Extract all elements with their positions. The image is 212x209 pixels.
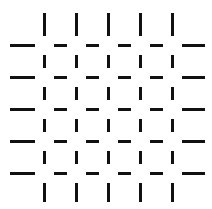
horizontal-segment <box>182 108 205 111</box>
vertical-segment <box>139 183 142 202</box>
vertical-segment <box>43 13 46 36</box>
vertical-segment <box>139 151 142 164</box>
vertical-segment <box>75 183 78 202</box>
horizontal-segment <box>54 76 67 79</box>
vertical-segment <box>139 119 142 132</box>
horizontal-segment <box>10 172 35 175</box>
vertical-segment <box>43 183 46 202</box>
vertical-segment <box>43 119 46 132</box>
horizontal-segment <box>150 140 163 143</box>
vertical-segment <box>75 13 78 36</box>
horizontal-segment <box>54 140 67 143</box>
horizontal-segment <box>86 172 99 175</box>
vertical-segment <box>43 87 46 100</box>
horizontal-segment <box>118 76 131 79</box>
vertical-segment <box>171 13 174 36</box>
horizontal-segment <box>150 44 163 47</box>
horizontal-segment <box>150 108 163 111</box>
vertical-segment <box>107 87 110 100</box>
vertical-segment <box>43 55 46 68</box>
grid-illusion-figure <box>0 0 212 209</box>
horizontal-segment <box>150 172 163 175</box>
vertical-segment <box>171 55 174 68</box>
vertical-segment <box>139 87 142 100</box>
horizontal-segment <box>86 108 99 111</box>
horizontal-segment <box>54 44 67 47</box>
vertical-segment <box>107 13 110 36</box>
vertical-segment <box>107 151 110 164</box>
vertical-segment <box>171 87 174 100</box>
horizontal-segment <box>10 44 35 47</box>
vertical-segment <box>139 13 142 36</box>
horizontal-segment <box>182 172 205 175</box>
horizontal-segment <box>86 44 99 47</box>
vertical-segment <box>107 183 110 202</box>
horizontal-segment <box>86 140 99 143</box>
horizontal-segment <box>118 108 131 111</box>
vertical-segment <box>107 119 110 132</box>
horizontal-segment <box>10 140 35 143</box>
horizontal-segment <box>182 44 205 47</box>
vertical-segment <box>43 151 46 164</box>
vertical-segment <box>171 183 174 202</box>
horizontal-segment <box>10 76 35 79</box>
horizontal-segment <box>54 172 67 175</box>
vertical-segment <box>75 87 78 100</box>
vertical-segment <box>139 55 142 68</box>
horizontal-segment <box>118 140 131 143</box>
horizontal-segment <box>182 76 205 79</box>
horizontal-segment <box>150 76 163 79</box>
vertical-segment <box>171 151 174 164</box>
vertical-segment <box>75 119 78 132</box>
horizontal-segment <box>118 44 131 47</box>
vertical-segment <box>75 151 78 164</box>
vertical-segment <box>171 119 174 132</box>
horizontal-segment <box>118 172 131 175</box>
horizontal-segment <box>86 76 99 79</box>
vertical-segment <box>75 55 78 68</box>
horizontal-segment <box>182 140 205 143</box>
horizontal-segment <box>54 108 67 111</box>
vertical-segment <box>107 55 110 68</box>
horizontal-segment <box>10 108 35 111</box>
